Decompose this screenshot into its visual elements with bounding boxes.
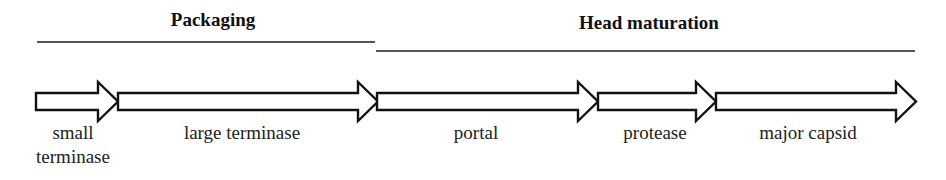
gene-label-line: terminase (36, 145, 110, 169)
gene-label-line: small (36, 121, 110, 145)
gene-label-line: protease (623, 121, 686, 145)
gene-label: major capsid (759, 121, 857, 145)
gene-arrow-protease (598, 82, 716, 121)
gene-arrows (0, 0, 946, 180)
gene-arrow-small-terminase (36, 82, 118, 121)
gene-label: large terminase (184, 121, 300, 145)
gene-arrow-major-capsid (716, 82, 916, 121)
gene-label-line: major capsid (759, 121, 857, 145)
gene-label-line: portal (454, 121, 498, 145)
gene-label: portal (454, 121, 498, 145)
gene-arrow-portal (377, 82, 598, 121)
gene-label-line: large terminase (184, 121, 300, 145)
gene-label: protease (623, 121, 686, 145)
gene-arrow-large-terminase (118, 82, 378, 121)
gene-label: smallterminase (36, 121, 110, 169)
